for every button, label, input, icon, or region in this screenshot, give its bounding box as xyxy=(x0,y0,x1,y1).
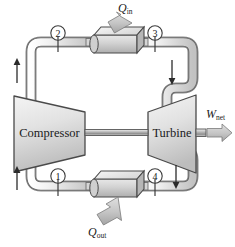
drive-shaft xyxy=(85,130,148,136)
diagram-canvas: Compressor Turbine xyxy=(0,0,235,247)
w-net-label: Wnet xyxy=(206,107,226,122)
turbine-label: Turbine xyxy=(152,126,192,140)
q-out-label: Qout xyxy=(88,225,107,240)
compressor-label: Compressor xyxy=(19,126,80,140)
brayton-cycle-diagram: Compressor Turbine xyxy=(0,0,235,247)
q-out-arrow xyxy=(97,197,122,225)
q-out-subscript: out xyxy=(97,231,108,240)
q-in-subscript: in xyxy=(127,7,133,16)
heat-exchanger-bottom xyxy=(86,171,148,197)
q-out-symbol: Q xyxy=(88,225,97,239)
flow-arrow-right-upper xyxy=(169,60,176,85)
w-net-subscript: net xyxy=(216,113,226,122)
q-in-label: Qin xyxy=(118,1,133,16)
q-in-symbol: Q xyxy=(118,1,127,15)
w-net-shaft-stub xyxy=(196,129,206,137)
flow-arrow-left-upper xyxy=(14,58,21,83)
w-net-arrow xyxy=(207,124,232,142)
